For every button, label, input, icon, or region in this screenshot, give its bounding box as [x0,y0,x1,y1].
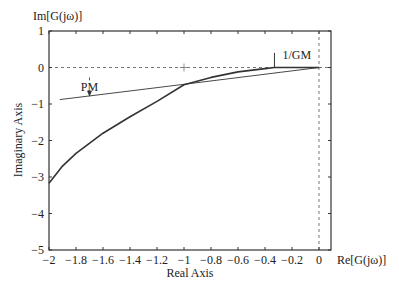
x-tick-label: −1.2 [146,253,168,267]
pm-reference-line [60,68,319,100]
x-axis-title: Real Axis [167,266,214,280]
x-axis-end-label: Re[G(jω)] [337,253,386,267]
x-tick-label: −0.8 [200,253,222,267]
gm-label: 1/GM [282,48,311,62]
reference-lines [49,31,331,250]
y-tick-label: 0 [38,61,44,75]
x-tick-label: −1.6 [92,253,114,267]
plot-border [49,31,331,250]
plot-frame [49,31,331,250]
x-tick-label: −1 [178,253,191,267]
y-tick-label: 1 [38,24,44,38]
annotations: PM1/GM [81,48,312,97]
x-tick-label: 0 [316,253,322,267]
y-axis-title: Imaginary Axis [11,103,25,178]
y-tick-label: −5 [31,243,44,257]
y-tick-label: −1 [31,97,44,111]
x-tick-label: −0.2 [281,253,303,267]
x-tick-label: −1.4 [119,253,141,267]
y-tick-label: −3 [31,170,44,184]
x-tick-label: −1.8 [65,253,87,267]
y-axis-top-label: Im[G(jω)] [33,9,82,23]
y-tick-label: −2 [31,134,44,148]
x-tick-label: −2 [43,253,56,267]
y-tick-label: −4 [31,207,44,221]
x-tick-label: −0.6 [227,253,249,267]
nyquist-chart: −2−1.8−1.6−1.4−1.2−1−0.8−0.6−0.4−0.2010−… [0,0,399,295]
x-tick-label: −0.4 [254,253,276,267]
